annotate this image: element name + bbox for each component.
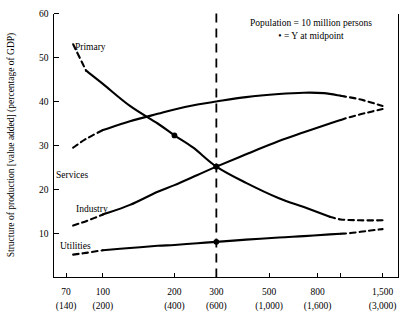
plot-axes: [54, 14, 399, 278]
series-line-primary-dashed-right: [330, 217, 383, 221]
legend-population-note: Population = 10 million persons: [250, 18, 372, 28]
series-line-utilities-dashed-right: [341, 229, 383, 234]
x-tick-label-secondary: (140): [56, 301, 77, 312]
y-axis-label: Structure of production [value added] (p…: [6, 33, 17, 257]
series-line-industry: [103, 120, 341, 215]
y-tick-label: 40: [39, 97, 49, 107]
x-tick-label-secondary: (1,000): [255, 301, 283, 312]
x-tick-label-secondary: (3,000): [369, 301, 397, 312]
series-lines: [73, 44, 382, 254]
midpoint-marker-utilities: [213, 239, 219, 245]
series-label-industry: Industry: [76, 204, 108, 214]
x-axis-ticks: 70(140)100(200)200(400)300(600)500(1,000…: [56, 273, 397, 312]
series-label-primary: Primary: [75, 42, 106, 52]
chart-figure: Structure of production [value added] (p…: [0, 0, 411, 320]
structure-of-production-chart: Structure of production [value added] (p…: [0, 0, 411, 320]
series-label-utilities: Utilities: [60, 241, 91, 251]
series-label-services: Services: [56, 170, 88, 180]
x-tick-label-secondary: (400): [164, 301, 185, 312]
y-axis-ticks: 102030405060: [39, 9, 59, 239]
x-tick-label-primary: 500: [262, 287, 277, 297]
x-tick-label-secondary: (600): [206, 301, 227, 312]
y-tick-label: 20: [39, 185, 49, 195]
x-tick-label-primary: 100: [96, 287, 111, 297]
y-tick-label: 10: [39, 229, 49, 239]
y-axis-label-text: Structure of production [value added] (p…: [6, 33, 17, 257]
legend-midpoint-note: • = Y at midpoint: [278, 31, 344, 41]
y-tick-label: 30: [39, 141, 49, 151]
x-tick-label-secondary: (1,600): [304, 301, 332, 312]
axis-frame: [54, 14, 399, 278]
series-line-services-dashed-right: [341, 96, 383, 106]
series-line-industry-dashed-right: [341, 109, 383, 120]
series-labels: PrimaryServicesIndustryUtilities: [56, 42, 108, 251]
x-tick-label-primary: 70: [61, 287, 71, 297]
y-tick-label: 60: [39, 9, 49, 19]
x-tick-label-primary: 300: [209, 287, 224, 297]
y-tick-label: 50: [39, 53, 49, 63]
x-tick-label-primary: 1,500: [372, 287, 394, 297]
chart-legend: Population = 10 million persons• = Y at …: [250, 18, 372, 41]
series-line-industry-dashed-left: [73, 215, 103, 226]
series-line-utilities: [103, 234, 341, 251]
series-line-services-dashed-left: [73, 130, 103, 148]
midpoint-marker-industry: [213, 164, 219, 170]
x-tick-label-secondary: (200): [93, 301, 114, 312]
x-tick-label-primary: 200: [167, 287, 182, 297]
x-tick-label-primary: 800: [311, 287, 326, 297]
midpoint-marker-primary: [172, 132, 178, 138]
